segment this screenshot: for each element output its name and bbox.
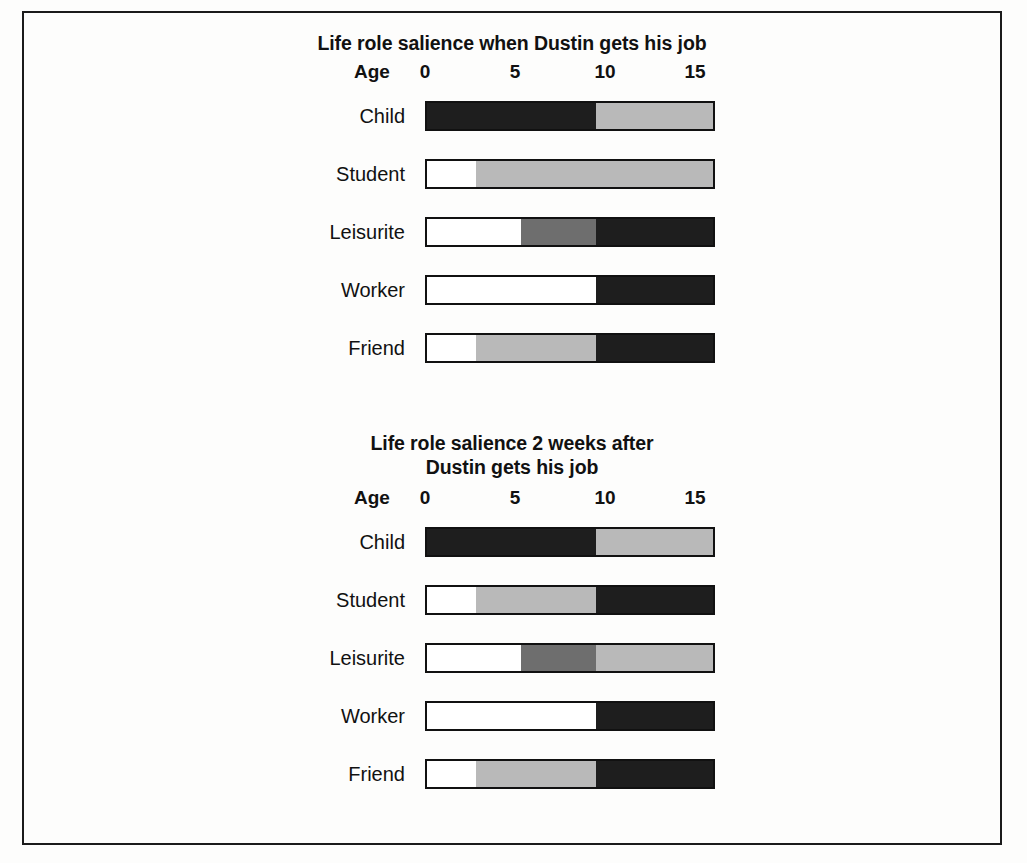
bar-segment-light: [476, 335, 597, 361]
bar-segment-dark: [427, 103, 596, 129]
chart-1-tick-0: 0: [420, 61, 431, 83]
bar-segment-medium: [521, 645, 597, 671]
chart-life-role-salience-2-weeks-after: Life role salience 2 weeks after Dustin …: [24, 431, 1000, 803]
chart-1-axis-label: Age: [354, 61, 390, 83]
stacked-bar: [425, 759, 715, 789]
bar-row: Leisurite: [24, 629, 1000, 687]
bar-row-label: Leisurite: [329, 647, 405, 670]
stacked-bar: [425, 701, 715, 731]
bar-segment-medium: [521, 219, 597, 245]
bar-row-label: Friend: [348, 763, 405, 786]
bar-segment-white: [427, 761, 476, 787]
page-canvas: Life role salience when Dustin gets his …: [0, 0, 1027, 863]
bar-segment-dark: [596, 335, 715, 361]
bar-segment-white: [427, 587, 476, 613]
chart-2-tick-5: 5: [510, 487, 521, 509]
stacked-bar: [425, 643, 715, 673]
bar-segment-light: [596, 529, 715, 555]
chart-2-bar-rows: ChildStudentLeisuriteWorkerFriend: [24, 513, 1000, 803]
bar-segment-light: [476, 161, 715, 187]
chart-1-axis: Age 0 5 10 15: [24, 61, 1000, 87]
chart-2-axis: Age 0 5 10 15: [24, 487, 1000, 513]
chart-2-axis-label: Age: [354, 487, 390, 509]
bar-row: Student: [24, 571, 1000, 629]
chart-1-bar-rows: ChildStudentLeisuriteWorkerFriend: [24, 87, 1000, 377]
chart-2-tick-0: 0: [420, 487, 431, 509]
bar-row-label: Child: [359, 105, 405, 128]
bar-segment-white: [427, 161, 476, 187]
bar-segment-light: [596, 103, 715, 129]
bar-segment-white: [427, 219, 521, 245]
figure-frame: Life role salience when Dustin gets his …: [22, 11, 1002, 845]
stacked-bar: [425, 527, 715, 557]
bar-segment-light: [476, 761, 597, 787]
chart-2-title-line2: Dustin gets his job: [24, 455, 1000, 479]
bar-segment-dark: [596, 761, 715, 787]
bar-segment-dark: [427, 529, 596, 555]
chart-1-title: Life role salience when Dustin gets his …: [24, 31, 1000, 55]
stacked-bar: [425, 217, 715, 247]
chart-life-role-salience-when-job: Life role salience when Dustin gets his …: [24, 31, 1000, 377]
bar-row: Worker: [24, 687, 1000, 745]
stacked-bar: [425, 585, 715, 615]
bar-row-label: Child: [359, 531, 405, 554]
chart-1-title-line1: Life role salience when Dustin gets his …: [317, 32, 706, 54]
bar-row: Child: [24, 87, 1000, 145]
bar-segment-dark: [596, 587, 715, 613]
bar-row: Friend: [24, 745, 1000, 803]
chart-2-title: Life role salience 2 weeks after Dustin …: [24, 431, 1000, 479]
bar-row-label: Friend: [348, 337, 405, 360]
chart-2-tick-10: 10: [594, 487, 615, 509]
bar-segment-light: [596, 645, 715, 671]
bar-row: Student: [24, 145, 1000, 203]
bar-segment-dark: [596, 277, 715, 303]
bar-segment-dark: [596, 703, 715, 729]
bar-row-label: Student: [336, 589, 405, 612]
bar-row: Friend: [24, 319, 1000, 377]
bar-row: Worker: [24, 261, 1000, 319]
bar-row-label: Student: [336, 163, 405, 186]
bar-row-label: Worker: [341, 279, 405, 302]
chart-1-tick-10: 10: [594, 61, 615, 83]
chart-1-tick-5: 5: [510, 61, 521, 83]
bar-segment-light: [476, 587, 597, 613]
stacked-bar: [425, 275, 715, 305]
chart-1-tick-15: 15: [684, 61, 705, 83]
bar-segment-white: [427, 645, 521, 671]
bar-segment-white: [427, 703, 596, 729]
bar-row: Child: [24, 513, 1000, 571]
stacked-bar: [425, 333, 715, 363]
bar-row-label: Leisurite: [329, 221, 405, 244]
chart-2-title-line1: Life role salience 2 weeks after: [371, 432, 654, 454]
bar-segment-dark: [596, 219, 715, 245]
stacked-bar: [425, 101, 715, 131]
stacked-bar: [425, 159, 715, 189]
chart-2-tick-15: 15: [684, 487, 705, 509]
bar-row: Leisurite: [24, 203, 1000, 261]
bar-row-label: Worker: [341, 705, 405, 728]
bar-segment-white: [427, 277, 596, 303]
bar-segment-white: [427, 335, 476, 361]
